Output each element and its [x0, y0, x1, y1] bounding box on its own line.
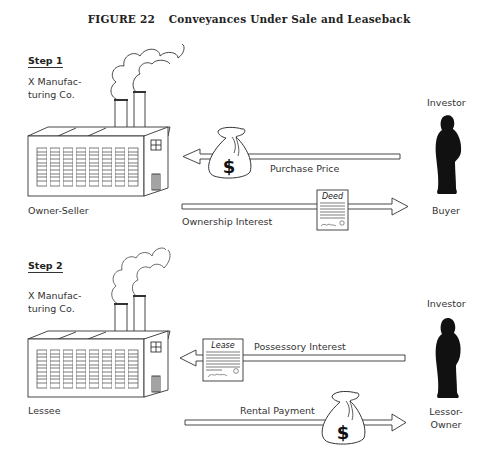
investor-silhouette-icon: [0, 0, 498, 466]
lessor-owner-label: Lessor- Owner: [426, 405, 466, 431]
owner-text: Owner: [426, 418, 466, 431]
lessor-text: Lessor-: [426, 405, 466, 418]
